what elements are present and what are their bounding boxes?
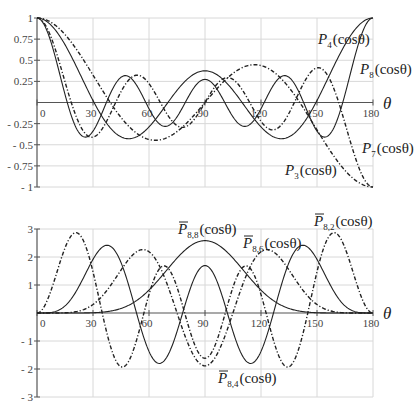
y-tick-label: - 0.75 — [7, 160, 33, 172]
x-tick-label: 180 — [363, 317, 380, 329]
x-tick-label: 0 — [40, 107, 46, 119]
y-tick-label: - 0.25 — [7, 118, 33, 130]
y-tick-label: 0.75 — [14, 33, 34, 45]
y-tick-label: - 2 — [21, 363, 33, 375]
y-tick-label: - 0.5 — [13, 139, 34, 151]
y-tick-label: - 3 — [21, 391, 33, 403]
y-tick-label: 1 — [28, 12, 34, 24]
x-tick-label: 120 — [251, 317, 268, 329]
x-tick-label: 30 — [86, 317, 98, 329]
y-tick-label: 0.5 — [19, 54, 33, 66]
y-tick-label: 2 — [28, 251, 34, 263]
y-tick-label: 0.25 — [14, 75, 34, 87]
y-tick-label: - 1 — [21, 181, 33, 193]
x-tick-label: 150 — [307, 317, 324, 329]
x-tick-label: 180 — [363, 107, 380, 119]
series-label: P8,8(cosθ) — [177, 221, 237, 240]
svg-text:P8(cosθ): P8(cosθ) — [359, 61, 412, 80]
series-label: P8,4(cosθ) — [217, 370, 277, 389]
top-chart-legendre-polynomials: 10.750.50.25- 0.25- 0.5- 0.75- 103060901… — [7, 12, 414, 193]
svg-text:P3(cosθ): P3(cosθ) — [284, 162, 337, 181]
x-axis-symbol: θ — [383, 304, 391, 323]
x-tick-label: 0 — [40, 317, 46, 329]
y-tick-label: 1 — [28, 279, 34, 291]
x-axis-symbol: θ — [383, 94, 391, 113]
svg-text:P8,8(cosθ): P8,8(cosθ) — [177, 221, 237, 240]
legendre-figure: 10.750.50.25- 0.25- 0.5- 0.75- 103060901… — [0, 0, 417, 416]
y-tick-label: - 1 — [21, 335, 33, 347]
svg-text:P7(cosθ): P7(cosθ) — [361, 140, 414, 159]
series-label: P3(cosθ) — [284, 162, 337, 181]
svg-text:P8,4(cosθ): P8,4(cosθ) — [217, 370, 277, 389]
y-tick-label: 3 — [28, 223, 34, 235]
bottom-chart-normalized-associated-legendre: 321- 1- 2- 30306090120150180θP8,8(cosθ)P… — [21, 213, 391, 403]
x-tick-label: 90 — [198, 317, 210, 329]
series-label: P7(cosθ) — [361, 140, 414, 159]
x-tick-label: 30 — [86, 107, 98, 119]
series-label: P8(cosθ) — [359, 61, 412, 80]
x-tick-label: 60 — [142, 317, 154, 329]
